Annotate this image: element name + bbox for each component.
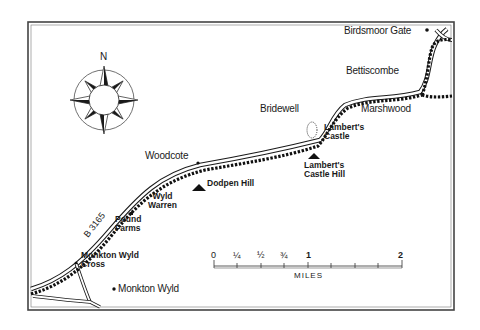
scale-unit-label: MILES [294, 271, 323, 280]
compass-north-label: N [100, 52, 107, 62]
place-label-birdsmoor-gate: Birdsmoor Gate [344, 26, 411, 36]
feature-label-lamberts-castle-line2: Castle [324, 132, 364, 141]
scale-label-quarter: ¼ [233, 251, 241, 260]
monkton-wyld-cross-dot-icon [75, 262, 78, 265]
place-label-bettiscombe: Bettiscombe [346, 66, 399, 76]
place-label-woodcote: Woodcote [145, 151, 188, 161]
feature-label-monkton-wyld-cross-line2: Cross [81, 260, 139, 269]
feature-label-monkton-wyld-cross: Monkton Wyld Cross [81, 251, 139, 269]
place-label-bridewell: Bridewell [260, 104, 299, 114]
feature-label-wyld-warren: Wyld Warren [148, 192, 177, 210]
feature-label-pound-farms-line2: Farms [115, 224, 141, 233]
lamberts-castle-earthwork-icon [307, 122, 317, 138]
dodpen-hill-triangle-icon [192, 184, 206, 191]
feature-label-dodpen-hill: Dodpen Hill [207, 179, 254, 188]
birdsmoor-gate-dot-icon [425, 28, 429, 32]
compass-rose-icon [66, 62, 142, 138]
scale-label-three-quarter: ¾ [280, 251, 288, 260]
scale-bar [214, 260, 402, 268]
lamberts-castle-hill-triangle-icon [308, 153, 320, 159]
woodcote-dot-icon [196, 161, 199, 164]
scale-label-0: 0 [211, 251, 216, 260]
feature-label-lamberts-castle-hill-line2: Castle Hill [304, 170, 345, 179]
place-label-marshwood: Marshwood [361, 104, 411, 114]
scale-label-1: 1 [306, 251, 311, 260]
feature-label-lamberts-castle: Lambert's Castle [324, 123, 364, 141]
feature-label-lamberts-castle-hill: Lambert's Castle Hill [304, 161, 345, 179]
feature-label-wyld-warren-line2: Warren [148, 201, 177, 210]
map-canvas: B 3165 [0, 0, 480, 330]
monkton-wyld-dot-icon [112, 287, 115, 290]
scale-label-2: 2 [398, 251, 403, 260]
place-label-monkton-wyld: Monkton Wyld [118, 284, 179, 294]
feature-label-pound-farms: Pound Farms [115, 215, 141, 233]
scale-label-half: ½ [257, 251, 265, 260]
